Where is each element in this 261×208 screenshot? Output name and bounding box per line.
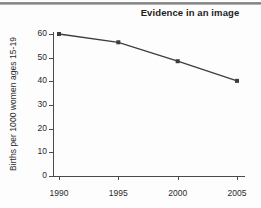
data-point-marker	[176, 59, 180, 63]
series-line	[59, 34, 237, 81]
data-point-marker	[235, 79, 239, 83]
data-point-marker	[116, 40, 120, 44]
data-point-marker	[57, 32, 61, 36]
chart-figure: Evidence in an image Births per 1000 wom…	[0, 0, 261, 208]
data-series-layer	[0, 0, 261, 208]
series-markers	[57, 32, 239, 83]
